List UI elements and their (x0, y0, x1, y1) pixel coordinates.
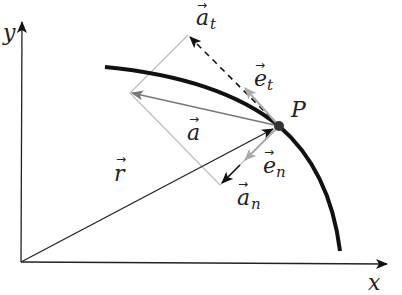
vector-arrow-glyph: → (238, 177, 248, 191)
vector-arrow-glyph: → (255, 58, 265, 72)
y-axis-label: y (2, 20, 16, 45)
normal-unit-vector-subscript: n (276, 163, 286, 181)
normal-acceleration-subscript: n (251, 195, 261, 213)
position-vector (21, 129, 273, 262)
y-axis (21, 22, 22, 262)
x-axis (21, 262, 387, 264)
acceleration-diagram: y x P r → a → a t → e t → e n → a n → (0, 0, 402, 295)
point-p-label: P (290, 97, 307, 122)
vector-arrow-glyph: → (197, 0, 207, 12)
x-axis-label: x (368, 270, 381, 295)
vector-arrow-glyph: → (116, 152, 126, 166)
point-p (274, 121, 284, 131)
tangent-unit-vector-subscript: t (267, 76, 274, 94)
vector-arrow-glyph: → (189, 112, 199, 126)
tangential-acceleration-subscript: t (210, 15, 217, 33)
vector-arrow-glyph: → (264, 145, 274, 159)
